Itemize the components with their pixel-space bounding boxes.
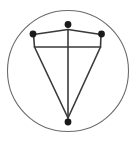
diagram-canvas — [0, 0, 136, 144]
right-vertex-dot — [98, 31, 105, 38]
top-vertex-dot — [65, 21, 72, 28]
bottom-vertex-dot — [65, 119, 72, 126]
geometric-figure-svg — [0, 0, 136, 144]
left-vertex-dot — [30, 31, 37, 38]
